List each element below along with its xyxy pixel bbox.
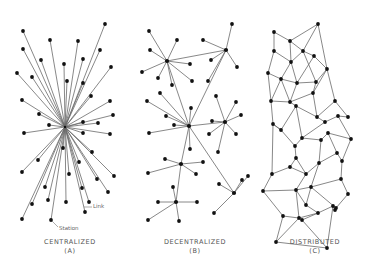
station-node bbox=[171, 185, 175, 189]
link bbox=[23, 49, 65, 127]
station-node bbox=[325, 67, 329, 71]
station-node bbox=[217, 182, 221, 186]
hub-node bbox=[179, 162, 183, 166]
station-node bbox=[189, 106, 193, 110]
station-node bbox=[269, 99, 273, 103]
link bbox=[189, 126, 190, 149]
station-node bbox=[314, 80, 318, 84]
station-node bbox=[61, 146, 65, 150]
hub-node bbox=[223, 120, 227, 124]
link bbox=[336, 194, 348, 208]
caption-distributed: DISTRIBUTED (C) bbox=[275, 238, 355, 256]
link bbox=[296, 106, 317, 117]
hub-node bbox=[232, 191, 236, 195]
station-node bbox=[47, 123, 51, 127]
station-node bbox=[316, 211, 320, 215]
station-node bbox=[340, 159, 344, 163]
link bbox=[263, 174, 272, 191]
link bbox=[165, 159, 181, 164]
station-node bbox=[335, 151, 339, 155]
station-node bbox=[209, 58, 213, 62]
hub-node bbox=[174, 200, 178, 204]
station-node bbox=[323, 120, 327, 124]
link bbox=[65, 83, 83, 127]
link bbox=[341, 179, 348, 194]
station-node bbox=[147, 131, 151, 135]
link bbox=[296, 187, 311, 190]
station-node bbox=[240, 178, 244, 182]
link bbox=[208, 50, 226, 81]
link bbox=[272, 167, 290, 174]
hub-node bbox=[187, 124, 191, 128]
link bbox=[318, 206, 333, 213]
station-node bbox=[20, 98, 24, 102]
station-node bbox=[289, 60, 293, 64]
link bbox=[281, 79, 290, 102]
station-node bbox=[333, 208, 337, 212]
station-node bbox=[317, 161, 321, 165]
station-node bbox=[239, 113, 243, 117]
link bbox=[22, 100, 65, 127]
link bbox=[148, 164, 181, 173]
link bbox=[45, 127, 65, 187]
link bbox=[32, 77, 65, 127]
link bbox=[216, 96, 225, 122]
station-node bbox=[39, 58, 43, 62]
station-node bbox=[15, 71, 19, 75]
station-node bbox=[87, 200, 91, 204]
station-node bbox=[98, 48, 102, 52]
station-node bbox=[315, 115, 319, 119]
link bbox=[203, 40, 226, 50]
link bbox=[325, 116, 338, 122]
link bbox=[225, 102, 236, 122]
link bbox=[160, 93, 189, 126]
network-topology-diagram: Link Station CENTRALIZED (A) DECENTRALIZ… bbox=[0, 0, 378, 256]
station-node bbox=[43, 185, 47, 189]
station-node bbox=[188, 62, 192, 66]
link bbox=[317, 101, 335, 117]
link bbox=[166, 116, 189, 126]
station-node bbox=[309, 185, 313, 189]
station-node bbox=[46, 198, 50, 202]
link bbox=[281, 130, 295, 146]
link bbox=[306, 187, 311, 205]
station-node bbox=[140, 70, 144, 74]
link bbox=[17, 73, 65, 127]
caption-letter: (A) bbox=[30, 247, 110, 256]
link bbox=[32, 127, 65, 204]
station-node bbox=[65, 79, 69, 83]
link bbox=[271, 101, 290, 102]
station-node bbox=[145, 99, 149, 103]
link bbox=[271, 79, 281, 101]
station-node bbox=[304, 203, 308, 207]
link bbox=[316, 69, 327, 82]
link bbox=[214, 193, 234, 213]
link bbox=[318, 24, 327, 69]
station-node bbox=[175, 38, 179, 42]
station-node bbox=[294, 104, 298, 108]
station-node bbox=[281, 214, 285, 218]
station-node bbox=[270, 172, 274, 176]
caption-letter: (C) bbox=[275, 247, 355, 256]
link bbox=[65, 127, 114, 176]
station-node bbox=[177, 219, 181, 223]
station-node bbox=[21, 47, 25, 51]
link bbox=[303, 24, 318, 51]
link bbox=[65, 123, 98, 127]
station-node bbox=[21, 29, 25, 33]
link bbox=[319, 153, 337, 163]
station-node bbox=[331, 204, 335, 208]
station-node bbox=[146, 218, 150, 222]
link bbox=[291, 51, 303, 62]
station-node bbox=[288, 100, 292, 104]
link bbox=[296, 174, 306, 190]
station-node bbox=[62, 62, 66, 66]
link bbox=[50, 40, 65, 127]
station-node bbox=[288, 39, 292, 43]
station-node bbox=[336, 114, 340, 118]
station-node bbox=[30, 202, 34, 206]
station-node bbox=[201, 160, 205, 164]
station-node bbox=[346, 115, 350, 119]
caption-title: CENTRALIZED bbox=[30, 238, 110, 247]
centralized-network bbox=[15, 22, 116, 222]
